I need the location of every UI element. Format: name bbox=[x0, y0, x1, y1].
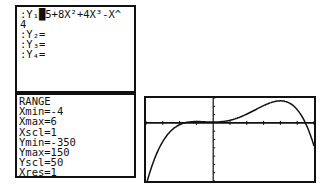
function-plot bbox=[146, 98, 314, 181]
xres-setting[interactable]: Xres=1 bbox=[19, 167, 134, 177]
y4-equation[interactable]: :Y₄= bbox=[20, 49, 134, 59]
y1-equation-line1[interactable]: :Y₁█5+8X²+4X³-X^ bbox=[20, 9, 134, 19]
y-equals-editor: :Y₁█5+8X²+4X³-X^ 4 :Y₂= :Y₃= :Y₄= bbox=[15, 5, 136, 93]
range-settings: RANGE Xmin=-4 Xmax=6 Xscl=1 Ymin=-350 Ym… bbox=[15, 93, 136, 178]
graph-screen bbox=[144, 96, 316, 183]
function-curve bbox=[146, 101, 314, 181]
